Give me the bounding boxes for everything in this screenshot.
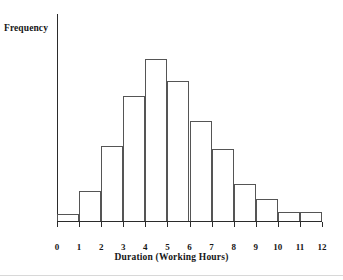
x-axis-tick-label: 3 (112, 242, 134, 252)
x-axis-tick-label: 9 (245, 242, 267, 252)
x-axis-tick-label: 2 (90, 242, 112, 252)
histogram-bar (167, 81, 189, 221)
x-axis-tick-label: 4 (134, 242, 156, 252)
histogram-figure: Frequency 0123456789101112 Duration (Wor… (0, 0, 343, 280)
x-axis-tick (278, 222, 279, 227)
x-axis-tick-label: 7 (201, 242, 223, 252)
histogram-bar (234, 184, 256, 221)
x-axis-tick (167, 222, 168, 227)
x-axis-tick (79, 222, 80, 227)
x-axis-tick (123, 222, 124, 227)
x-axis-tick (57, 222, 58, 227)
histogram-bar (278, 212, 300, 221)
x-axis-tick (190, 222, 191, 227)
bar-series (57, 14, 322, 222)
histogram-bar (101, 146, 123, 221)
x-axis-tick (212, 222, 213, 227)
histogram-bar (145, 59, 167, 221)
histogram-bar (212, 149, 234, 221)
x-axis-tick (256, 222, 257, 227)
x-axis-tick-label: 8 (223, 242, 245, 252)
x-axis-tick (101, 222, 102, 227)
plot-area: 0123456789101112 (57, 14, 322, 222)
x-axis-tick-label: 1 (68, 242, 90, 252)
x-axis-title: Duration (Working Hours) (0, 252, 343, 262)
x-axis-tick-label: 5 (156, 242, 178, 252)
histogram-bar (79, 191, 101, 221)
histogram-bar (300, 212, 322, 221)
x-axis-tick-label: 12 (311, 242, 333, 252)
x-axis-tick-label: 10 (267, 242, 289, 252)
x-axis-tick-label: 11 (289, 242, 311, 252)
x-axis-tick-label: 6 (179, 242, 201, 252)
x-axis-tick (300, 222, 301, 227)
y-axis-title: Frequency (4, 23, 48, 33)
histogram-bar (123, 96, 145, 221)
page-bottom-edge (0, 275, 343, 276)
histogram-bar (256, 199, 278, 221)
x-axis-tick (322, 222, 323, 227)
x-axis-tick-label: 0 (46, 242, 68, 252)
x-axis-tick (234, 222, 235, 227)
x-axis-tick (145, 222, 146, 227)
histogram-bar (57, 214, 79, 221)
histogram-bar (190, 121, 212, 221)
